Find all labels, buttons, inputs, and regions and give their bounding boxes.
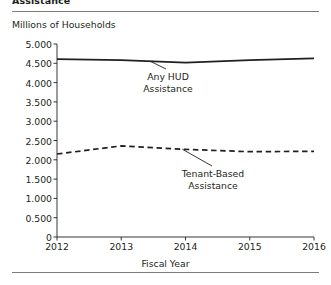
x-tick-label: 2016 (294, 241, 331, 252)
y-tick-label: 4.500 (12, 58, 52, 69)
y-tick-label: 5.000 (12, 39, 52, 50)
annotation-tenant-based-assistance: Tenant-Based Assistance (171, 168, 255, 191)
figure-divider-bottom (12, 272, 319, 273)
y-tick-label: 2.500 (12, 135, 52, 146)
x-tick-label: 2012 (37, 241, 77, 252)
y-tick-label: 1.000 (12, 193, 52, 204)
figure-container: Assistance Millions of Households 00.500… (0, 0, 331, 285)
y-axis-ticks (54, 44, 58, 237)
x-tick-label: 2015 (230, 241, 270, 252)
series-line-any-hud-assistance (57, 58, 314, 62)
y-tick-label: 2.000 (12, 154, 52, 165)
y-tick-label: 0.500 (12, 212, 52, 223)
y-tick-label: 1.500 (12, 174, 52, 185)
x-axis-title: Fiscal Year (0, 258, 331, 269)
annotation-any-hud-assistance: Any HUD Assistance (131, 71, 205, 94)
series-line-tenant-based-assistance (57, 146, 314, 154)
x-axis-ticks (57, 237, 314, 241)
x-tick-label: 2014 (166, 241, 206, 252)
x-tick-label: 2013 (101, 241, 141, 252)
leader-line-tenant-based-assistance (182, 149, 212, 166)
y-tick-label: 4.000 (12, 77, 52, 88)
y-tick-label: 3.500 (12, 96, 52, 107)
y-tick-label: 3.000 (12, 116, 52, 127)
